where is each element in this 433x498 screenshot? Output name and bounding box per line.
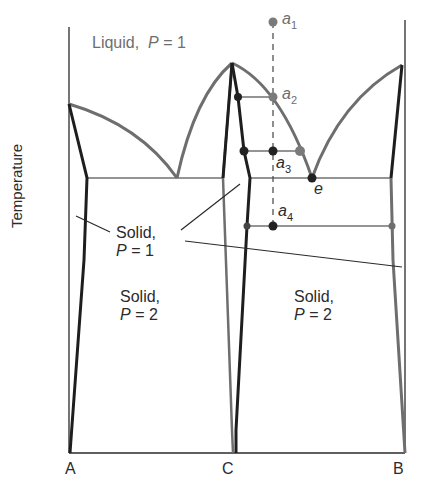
solid-right-p: P bbox=[294, 306, 305, 323]
point-a4 bbox=[269, 222, 278, 231]
leader-line-left bbox=[76, 216, 110, 232]
a1-letter: a bbox=[282, 10, 291, 27]
solidus-C-left bbox=[223, 63, 232, 178]
point-a1 bbox=[269, 18, 278, 27]
x-label-A: A bbox=[65, 460, 76, 478]
solid-p1-p: P bbox=[116, 242, 127, 259]
liquid-value: 1 bbox=[177, 34, 186, 51]
a2-sub: 2 bbox=[291, 94, 297, 106]
solid-p1-eq: = bbox=[131, 242, 140, 259]
x-label-B: B bbox=[393, 460, 404, 478]
label-a2: a2 bbox=[282, 85, 297, 104]
a2-letter: a bbox=[282, 85, 291, 102]
solid-left-eq: = bbox=[135, 306, 144, 323]
right-liquidus-B bbox=[312, 65, 402, 178]
point-a3-left bbox=[240, 147, 249, 156]
solid-right-value: 2 bbox=[323, 306, 332, 323]
region-label-solid-right: Solid, P = 2 bbox=[294, 288, 334, 324]
point-a2-right bbox=[269, 93, 278, 102]
liquid-name: Liquid, bbox=[92, 34, 139, 51]
solidus-C-right bbox=[232, 63, 250, 453]
x-label-C: C bbox=[222, 460, 234, 478]
a3-sub: 3 bbox=[285, 163, 291, 175]
y-axis-label: Temperature bbox=[8, 128, 25, 228]
solid-right-name: Solid, bbox=[294, 288, 334, 306]
solid-p1-name: Solid, bbox=[116, 224, 156, 242]
label-a3: a3 bbox=[276, 154, 291, 173]
a1-sub: 1 bbox=[291, 19, 297, 31]
label-e: e bbox=[314, 180, 323, 198]
label-a4: a4 bbox=[278, 202, 293, 221]
solid-right-eq: = bbox=[309, 306, 318, 323]
point-a2-left bbox=[234, 93, 242, 101]
solid-left-name: Solid, bbox=[120, 288, 160, 306]
phase-diagram bbox=[0, 0, 433, 498]
right-liquidus-C bbox=[232, 63, 312, 178]
point-a4-right bbox=[389, 223, 396, 230]
label-a1: a1 bbox=[282, 10, 297, 29]
point-a4-left bbox=[244, 223, 251, 230]
solid-left-value: 2 bbox=[149, 306, 158, 323]
solidus-A bbox=[69, 104, 87, 453]
a4-sub: 4 bbox=[287, 211, 293, 223]
leader-line-upper-right bbox=[181, 184, 240, 230]
a4-letter: a bbox=[278, 202, 287, 219]
region-label-solid-left: Solid, P = 2 bbox=[120, 288, 160, 324]
solid-left-p: P bbox=[120, 306, 131, 323]
solidus-B-lower bbox=[391, 178, 405, 453]
solid-p1-value: 1 bbox=[145, 242, 154, 259]
a3-letter: a bbox=[276, 154, 285, 171]
region-label-liquid: Liquid, P = 1 bbox=[92, 34, 186, 52]
liquid-eq: = bbox=[163, 34, 172, 51]
point-a3-right bbox=[295, 146, 305, 156]
leader-line-lower-right bbox=[185, 241, 402, 267]
region-label-solid-p1: Solid, P = 1 bbox=[116, 224, 156, 260]
liquid-p: P bbox=[148, 34, 159, 51]
solidus-B-upper bbox=[391, 65, 402, 178]
